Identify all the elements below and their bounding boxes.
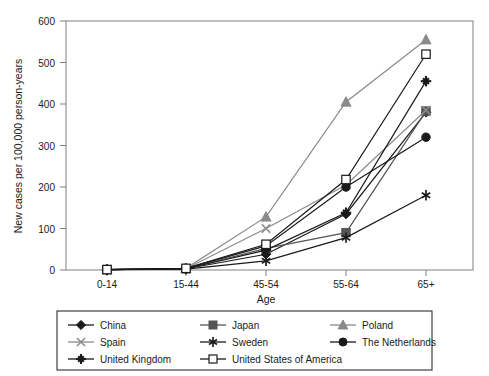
y-tick-label-400: 400 xyxy=(38,99,55,110)
x-tick-label-15-44: 15-44 xyxy=(173,279,199,290)
incidence-by-age-line-chart: 600 500 400 300 200 100 0 New cases per … xyxy=(0,0,489,376)
data-point-marker xyxy=(422,133,430,141)
legend-marker-icon xyxy=(339,338,347,346)
legend-label: Sweden xyxy=(232,337,268,348)
data-point-marker xyxy=(103,265,111,273)
legend-label: China xyxy=(100,320,127,331)
legend-label: Japan xyxy=(232,320,259,331)
y-tick-label-300: 300 xyxy=(38,141,55,152)
x-axis: 0-14 15-44 45-54 55-64 65+ Age xyxy=(97,270,435,305)
x-axis-ticks xyxy=(107,270,426,276)
x-tick-label-0-14: 0-14 xyxy=(97,279,117,290)
legend: ChinaJapanPolandSpainSwedenThe Netherlan… xyxy=(57,311,436,370)
legend-marker-icon xyxy=(209,321,217,329)
y-axis: 600 500 400 300 200 100 0 New cases per … xyxy=(12,16,66,276)
y-tick-label-600: 600 xyxy=(38,16,55,27)
y-tick-label-500: 500 xyxy=(38,58,55,69)
legend-label: United Kingdom xyxy=(100,354,171,365)
data-point-marker xyxy=(182,264,190,272)
data-point-marker xyxy=(262,240,270,248)
legend-marker-icon xyxy=(209,355,217,363)
legend-label: Spain xyxy=(100,337,126,348)
x-tick-label-65plus: 65+ xyxy=(418,279,435,290)
y-tick-label-100: 100 xyxy=(38,224,55,235)
y-axis-ticks xyxy=(60,21,66,270)
legend-label: Poland xyxy=(362,320,393,331)
x-tick-label-45-54: 45-54 xyxy=(253,279,279,290)
x-tick-label-55-64: 55-64 xyxy=(333,279,359,290)
legend-label: United States of America xyxy=(232,354,342,365)
legend-label: The Netherlands xyxy=(362,337,436,348)
y-axis-title: New cases per 100,000 person-years xyxy=(12,59,24,234)
data-point-marker xyxy=(342,175,350,183)
data-point-marker xyxy=(422,50,430,58)
y-tick-label-200: 200 xyxy=(38,182,55,193)
x-axis-title: Age xyxy=(257,293,276,305)
chart-page: 600 500 400 300 200 100 0 New cases per … xyxy=(0,0,489,376)
y-tick-label-0: 0 xyxy=(49,265,55,276)
